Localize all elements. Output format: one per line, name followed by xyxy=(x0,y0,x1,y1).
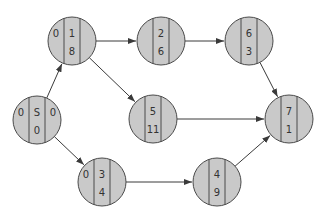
diagram-svg: 0S0001826635117103449 xyxy=(0,0,325,220)
node-top-value: 2 xyxy=(158,28,164,39)
node-left-value: 0 xyxy=(53,28,59,39)
node-bottom-value: 6 xyxy=(158,46,164,57)
node-circle xyxy=(225,17,273,65)
node-left-value: 0 xyxy=(18,107,24,118)
node-circle xyxy=(193,158,241,206)
edge-S-to-3 xyxy=(54,137,84,165)
node-top-value: 7 xyxy=(286,106,292,117)
node-5: 511 xyxy=(129,95,177,143)
node-top-value: S xyxy=(34,107,40,118)
node-circle xyxy=(48,17,96,65)
node-7: 71 xyxy=(265,95,313,143)
node-top-value: 3 xyxy=(99,169,105,180)
node-S: 0S00 xyxy=(13,96,61,144)
node-2: 26 xyxy=(137,17,185,65)
node-left-value: 0 xyxy=(83,169,89,180)
edge-1-to-5 xyxy=(89,58,135,102)
edge-6-to-7 xyxy=(260,62,278,96)
node-circle xyxy=(78,158,126,206)
node-right-value: 0 xyxy=(50,107,56,118)
node-top-value: 1 xyxy=(69,28,75,39)
node-top-value: 5 xyxy=(150,106,156,117)
node-bottom-value: 9 xyxy=(214,187,220,198)
node-bottom-value: 3 xyxy=(246,46,252,57)
node-circle xyxy=(13,96,61,144)
node-bottom-value: 11 xyxy=(147,124,160,135)
node-bottom-value: 4 xyxy=(99,187,105,198)
node-circle xyxy=(129,95,177,143)
node-circle xyxy=(265,95,313,143)
node-circle xyxy=(137,17,185,65)
network-diagram: 0S0001826635117103449 xyxy=(0,0,325,220)
node-top-value: 4 xyxy=(214,169,220,180)
node-3: 034 xyxy=(78,158,126,206)
node-4: 49 xyxy=(193,158,241,206)
node-top-value: 6 xyxy=(246,28,252,39)
node-6: 63 xyxy=(225,17,273,65)
node-bottom-value: 1 xyxy=(286,124,292,135)
nodes-layer: 0S0001826635117103449 xyxy=(13,17,313,206)
node-bottom-value: 8 xyxy=(69,46,75,57)
node-1: 018 xyxy=(48,17,96,65)
node-bottom-value: 0 xyxy=(34,125,40,136)
edge-S-to-1 xyxy=(47,64,62,98)
edge-4-to-7 xyxy=(235,135,270,166)
